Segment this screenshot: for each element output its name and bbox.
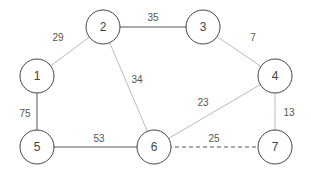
- node-7: 7: [258, 130, 292, 164]
- node-label: 6: [151, 140, 158, 154]
- edge-weight-label: 34: [131, 74, 143, 85]
- node-label: 4: [272, 69, 279, 83]
- graph-diagram: 293534775532313251234567: [0, 0, 311, 176]
- node-label: 3: [200, 20, 207, 34]
- edge-weight-label: 13: [283, 107, 295, 118]
- node-3: 3: [186, 10, 220, 44]
- edge-weight-label: 75: [19, 108, 31, 119]
- node-label: 5: [34, 140, 41, 154]
- edge-weight-label: 53: [93, 133, 105, 144]
- node-label: 7: [272, 140, 279, 154]
- node-label: 1: [34, 69, 41, 83]
- edge-2-6: [103, 27, 154, 147]
- node-1: 1: [20, 59, 54, 93]
- node-6: 6: [137, 130, 171, 164]
- node-2: 2: [86, 10, 120, 44]
- edge-weight-label: 7: [250, 32, 256, 43]
- edge-weight-label: 29: [52, 32, 64, 43]
- edge-weight-label: 35: [147, 12, 159, 23]
- edge-weight-label: 23: [197, 97, 209, 108]
- node-label: 2: [100, 20, 107, 34]
- node-5: 5: [20, 130, 54, 164]
- edge-weight-label: 25: [208, 133, 220, 144]
- node-4: 4: [258, 59, 292, 93]
